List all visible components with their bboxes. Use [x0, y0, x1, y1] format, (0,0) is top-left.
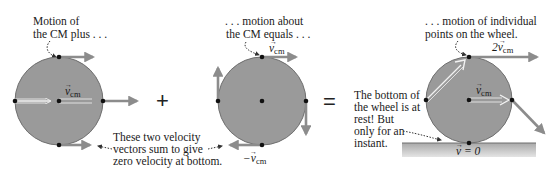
point-center	[467, 98, 472, 103]
point-bottom	[57, 143, 62, 148]
velocity-arrow-right-diagonal	[512, 100, 544, 133]
point-right	[304, 99, 309, 104]
vector-arrow-glyph: →	[476, 80, 483, 88]
plus-operator: +	[156, 88, 169, 113]
vector-arrow-glyph: →	[65, 81, 72, 89]
caption-rolling-line1: . . . motion of individual	[425, 15, 537, 27]
pointer-to-bottom-left	[98, 146, 112, 149]
caption-translation-line1: Motion of	[33, 15, 79, 27]
vector-arrow-glyph: →	[270, 38, 277, 46]
vector-arrow-glyph: →	[499, 37, 506, 45]
caption-pointer	[245, 42, 259, 55]
point-left	[424, 98, 429, 103]
pointer-to-contact-point	[403, 131, 441, 140]
rest-note-line1: The bottom of	[354, 89, 420, 101]
point-top	[260, 55, 265, 60]
panel-rotation: . . . motion about the CM equals . . . v…	[216, 15, 311, 166]
rest-note-line2: the wheel is at	[354, 101, 421, 113]
caption-pointer	[456, 41, 466, 55]
caption-rotation-line1: . . . motion about	[225, 15, 304, 27]
panel-rolling: . . . motion of individual points on the…	[402, 15, 544, 157]
point-top	[57, 55, 62, 60]
caption-rotation-line2: the CM equals . . .	[226, 28, 310, 41]
rest-note-line5: instant.	[354, 137, 388, 149]
vector-arrow-glyph: →	[250, 148, 257, 156]
panel-translation: Motion of the CM plus . . . vcm →	[13, 15, 137, 147]
point-center	[260, 99, 265, 104]
point-center	[57, 99, 62, 104]
sum-annotation: These two velocity vectors sum to give z…	[98, 131, 222, 168]
point-bottom-contact	[467, 141, 472, 146]
point-right	[510, 98, 515, 103]
point-right	[101, 99, 106, 104]
caption-translation-line2: the CM plus . . .	[33, 28, 107, 41]
caption-pointer	[47, 41, 56, 57]
point-bottom	[260, 143, 265, 148]
rest-note-line3: rest! But	[354, 113, 395, 125]
point-left	[13, 99, 18, 104]
vector-arrow-glyph: →	[456, 141, 463, 149]
pointer-to-bottom-right	[208, 146, 222, 149]
equals-operator: =	[323, 89, 336, 114]
rolling-motion-diagram: Motion of the CM plus . . . vcm → + Thes…	[0, 0, 556, 175]
point-left	[216, 99, 221, 104]
sum-note-line3: zero velocity at bottom.	[113, 155, 222, 168]
point-top	[467, 55, 472, 60]
